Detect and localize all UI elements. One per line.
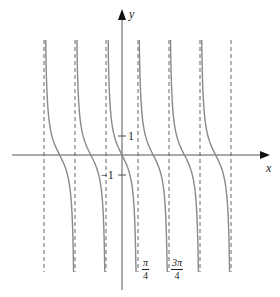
fraction-denominator: 4 [143, 270, 148, 281]
y-tick-label-1: 1 [128, 130, 134, 142]
curve-branch [77, 40, 105, 272]
curve-branch [139, 40, 167, 272]
y-axis-arrow-icon [118, 9, 126, 20]
fraction-numerator: 3π [171, 258, 183, 270]
curve-branch [202, 40, 230, 272]
y-axis-label: y [129, 8, 134, 20]
x-axis-label: x [266, 162, 271, 174]
fraction-numerator: π [142, 258, 149, 270]
curve-branch [171, 40, 199, 272]
x-tick-label-3pi-over-4: 3π 4 [171, 258, 183, 281]
function-graph [0, 0, 280, 297]
x-tick-label-pi-over-4: π 4 [142, 258, 149, 281]
y-tick-label-neg1: −1 [101, 169, 114, 181]
curve-branch [46, 40, 74, 272]
fraction-denominator: 4 [175, 270, 180, 281]
x-axis-arrow-icon [260, 151, 270, 159]
